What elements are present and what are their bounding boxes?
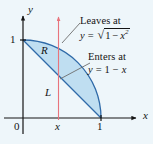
- origin-label: 0: [14, 121, 20, 132]
- x-axis-tick-label-1: 1: [97, 121, 103, 132]
- figure-graphics: [0, 0, 153, 144]
- enters-rhs-variable: x: [122, 64, 127, 75]
- enters-rhs-minus: −: [110, 64, 122, 75]
- radicand: 1−x2: [104, 28, 129, 41]
- leaves-eq-equals: =: [85, 30, 97, 41]
- y-axis-tick-label-1: 1: [10, 34, 16, 45]
- leader-line-leaves: [62, 23, 80, 43]
- radicand-minus: −: [110, 30, 120, 41]
- radical-sign: √: [98, 29, 105, 41]
- figure-container: y x 1 0 1 x R L Leaves at y=√1−x2 Enters…: [0, 0, 153, 144]
- enters-eq-equals: =: [93, 64, 105, 75]
- y-axis-label: y: [28, 4, 33, 15]
- callout-leaves-equation: y=√1−x2: [80, 28, 130, 41]
- radicand-exponent: 2: [125, 28, 129, 36]
- x-variable-tick-label: x: [55, 121, 60, 132]
- ray-label-l: L: [45, 87, 51, 98]
- callout-leaves-text: Leaves at: [80, 16, 121, 27]
- region-label-r: R: [41, 45, 48, 56]
- x-axis-label: x: [143, 110, 148, 121]
- enters-eq-lhs: y: [88, 64, 93, 75]
- callout-enters-text: Enters at: [88, 52, 126, 63]
- sqrt-icon: √1−x2: [97, 28, 130, 41]
- leaves-eq-lhs: y: [80, 30, 85, 41]
- callout-enters-equation: y=1−x: [88, 65, 126, 76]
